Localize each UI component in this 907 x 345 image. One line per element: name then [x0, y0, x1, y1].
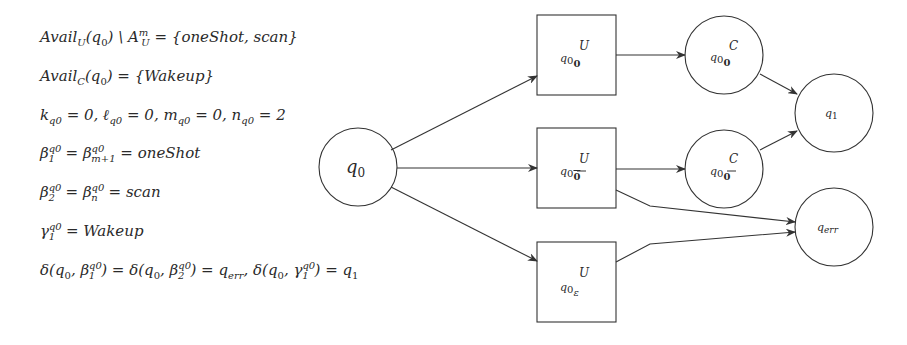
- node-q0U-0: [537, 15, 616, 95]
- label-q0U-0bar: q00: [560, 165, 580, 182]
- label-q0C-0bar: q00: [710, 165, 730, 182]
- node-q0C-0bar: [685, 130, 763, 208]
- state-diagram: q0 q00 U q00 U q0ε U q00 C q00 C q1 qerr: [0, 0, 907, 345]
- node-q0U-0bar: [537, 128, 616, 208]
- edge-q0C-0-to-q1: [760, 74, 797, 94]
- label-q0: q0: [346, 156, 365, 180]
- label-q0U-0bar-sup: U: [579, 152, 590, 166]
- node-q0C-0: [685, 16, 763, 94]
- edge-q0C-0bar-to-q1: [760, 131, 797, 150]
- edge-q0U-0bar-to-qerr: [616, 190, 795, 222]
- edge-q0-to-q0U-eps: [391, 187, 537, 261]
- node-q0U-eps: [537, 242, 616, 322]
- label-q0C-0-sup: C: [729, 39, 738, 53]
- label-q0C-0: q00: [710, 51, 730, 68]
- label-q0U-0: q00: [560, 52, 580, 69]
- label-qerr: qerr: [817, 221, 839, 235]
- edge-q0U-eps-to-qerr: [616, 232, 795, 262]
- label-q0U-0-sup: U: [579, 39, 590, 53]
- label-q0C-0bar-sup: C: [729, 152, 738, 166]
- label-q0U-eps: q0ε: [560, 281, 579, 298]
- label-q0U-eps-sup: U: [579, 266, 590, 280]
- label-q1: q1: [825, 107, 838, 121]
- edge-q0-to-q0U-0: [391, 76, 537, 150]
